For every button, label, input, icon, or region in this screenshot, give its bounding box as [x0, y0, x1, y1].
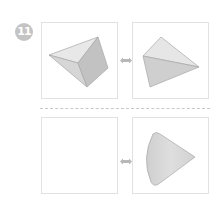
pyramid-view-b-shape — [143, 37, 199, 87]
double-arrow-icon — [120, 58, 132, 64]
pyramid-view-a-shape — [49, 37, 108, 87]
double-arrow-icon — [120, 159, 132, 165]
figures-layer — [0, 0, 221, 208]
cone-view-shape — [146, 133, 195, 186]
